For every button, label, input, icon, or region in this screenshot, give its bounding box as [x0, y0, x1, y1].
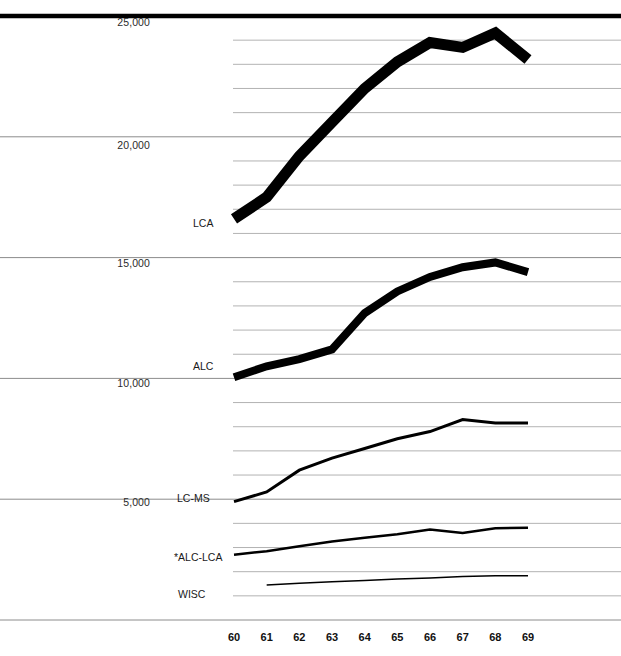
y-tick-label: 15,000	[60, 258, 150, 269]
series-label-lc-ms: LC-MS	[177, 493, 210, 504]
series-label-alc-lca: *ALC-LCA	[174, 552, 222, 563]
series-label-alc: ALC	[193, 361, 213, 372]
series-line-lc-ms	[234, 419, 528, 501]
chart-container: 25,00020,00015,00010,0005,000 LCAALCLC-M…	[0, 0, 621, 656]
x-tick-label: 69	[508, 632, 548, 643]
y-tick-label: 10,000	[60, 378, 150, 389]
y-tick-label: 20,000	[60, 140, 150, 151]
series-line-lca	[234, 33, 528, 219]
series-line-alc	[234, 262, 528, 377]
series-label-wisc: WISC	[178, 589, 205, 600]
series-line-alc-lca	[234, 528, 528, 555]
chart-plot-area	[0, 0, 621, 656]
y-tick-label: 5,000	[60, 497, 150, 508]
y-tick-label: 25,000	[60, 17, 150, 28]
series-label-lca: LCA	[193, 218, 213, 229]
series-line-wisc	[267, 576, 528, 585]
